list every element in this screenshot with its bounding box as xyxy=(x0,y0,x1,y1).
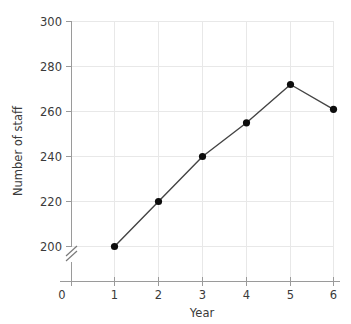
x-tick-label-5: 5 xyxy=(287,288,294,302)
x-tick-label-0: 0 xyxy=(58,288,65,302)
y-tick-label-300: 300 xyxy=(40,15,62,29)
x-tick-label-3: 3 xyxy=(199,288,206,302)
y-tick-label-200: 200 xyxy=(40,240,62,254)
y-tick-label-220: 220 xyxy=(40,195,62,209)
y-tick-label-240: 240 xyxy=(40,150,62,164)
chart-canvas: 300 280 260 240 220 200 0 1 2 3 4 5 6 Nu… xyxy=(0,0,351,324)
data-point-year-4 xyxy=(243,119,250,126)
data-point-year-6 xyxy=(330,106,337,113)
line-chart: 300 280 260 240 220 200 0 1 2 3 4 5 6 Nu… xyxy=(0,0,351,324)
data-point-year-1 xyxy=(111,243,118,250)
x-axis-title: Year xyxy=(189,306,215,320)
data-point-year-2 xyxy=(155,198,162,205)
y-tick-label-280: 280 xyxy=(40,60,62,74)
y-axis-title: Number of staff xyxy=(11,105,25,196)
y-tick-label-260: 260 xyxy=(40,105,62,119)
data-point-year-3 xyxy=(199,153,206,160)
x-tick-label-4: 4 xyxy=(243,288,250,302)
x-tick-label-2: 2 xyxy=(155,288,162,302)
x-tick-label-6: 6 xyxy=(330,288,337,302)
x-tick-label-1: 1 xyxy=(111,288,118,302)
data-point-year-5 xyxy=(287,81,294,88)
